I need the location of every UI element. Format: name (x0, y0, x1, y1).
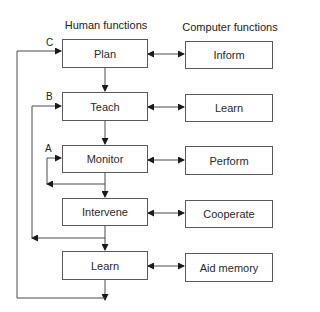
human-box-learn: Learn (62, 251, 148, 280)
computer-box-cooperate: Cooperate (185, 200, 273, 228)
human-box-plan: Plan (62, 39, 148, 68)
computer-box-label: Learn (215, 102, 243, 114)
computer-box-label: Perform (209, 155, 248, 167)
computer-functions-header: Computer functions (182, 21, 277, 33)
loop-a-entry (47, 158, 61, 184)
human-box-label: Monitor (87, 153, 124, 165)
human-box-label: Learn (91, 260, 119, 272)
loop-label-a: A (45, 143, 52, 154)
human-box-label: Intervene (82, 206, 128, 218)
human-box-label: Plan (94, 48, 116, 60)
human-box-intervene: Intervene (62, 198, 148, 226)
computer-box-perform: Perform (185, 146, 273, 175)
computer-box-label: Cooperate (203, 208, 254, 220)
loop-label-b: B (46, 91, 53, 102)
computer-box-aid-memory: Aid memory (185, 253, 273, 282)
computer-box-label: Inform (213, 49, 244, 61)
human-functions-header: Human functions (65, 19, 148, 31)
loop-label-c: C (46, 37, 53, 48)
computer-box-learn: Learn (185, 94, 273, 122)
human-box-teach: Teach (62, 92, 148, 121)
human-box-label: Teach (90, 101, 119, 113)
computer-box-label: Aid memory (200, 262, 259, 274)
human-box-monitor: Monitor (62, 145, 148, 173)
computer-box-inform: Inform (185, 41, 273, 69)
